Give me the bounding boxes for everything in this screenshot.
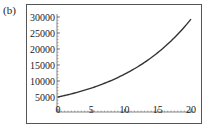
x-tick-label: 10 (120, 104, 130, 115)
data-line (58, 19, 191, 97)
y-tick-label: 5000 (35, 92, 55, 103)
y-axis: 50001000015000200002500030000 (30, 12, 60, 113)
y-tick-label: 25000 (30, 28, 55, 39)
y-tick-label: 20000 (30, 44, 55, 55)
line-chart: 50001000015000200002500030000 05101520 (0, 0, 207, 127)
x-tick-label: 20 (186, 104, 196, 115)
x-tick-label: 5 (89, 104, 94, 115)
y-tick-label: 30000 (30, 12, 55, 23)
x-tick-label: 15 (153, 104, 163, 115)
x-axis: 05101520 (56, 104, 197, 115)
y-tick-label: 10000 (30, 76, 55, 87)
x-tick-label: 0 (56, 104, 61, 115)
series-group (58, 19, 191, 97)
y-tick-label: 15000 (30, 60, 55, 71)
